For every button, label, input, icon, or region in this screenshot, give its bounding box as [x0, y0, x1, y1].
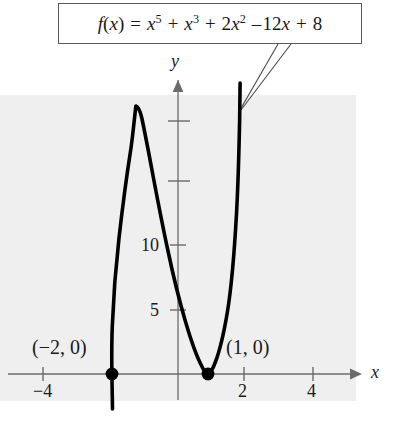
x-tick-label--4: −4: [33, 381, 52, 402]
y-axis-label: y: [171, 51, 179, 72]
point-marker--2-0: [106, 368, 119, 381]
x-tick-label-2: 2: [238, 381, 247, 402]
point-label-1-0: (1, 0): [226, 336, 269, 359]
figure-root: f(x) = x5 + x3 + 2x2 –12x + 8: [0, 0, 396, 423]
x-axis-label: x: [371, 362, 379, 383]
x-tick-label-4: 4: [307, 381, 316, 402]
y-tick-label-10: 10: [141, 235, 159, 256]
y-axis-arrowhead: [173, 80, 184, 92]
point-marker-1-0: [202, 368, 215, 381]
point-label--2-0: (−2, 0): [32, 336, 87, 359]
graph-canvas: x y −4 2 4 5 10 (−2, 0) (1, 0): [0, 0, 396, 423]
plot-svg: [0, 0, 396, 423]
y-tick-label-5: 5: [150, 300, 159, 321]
